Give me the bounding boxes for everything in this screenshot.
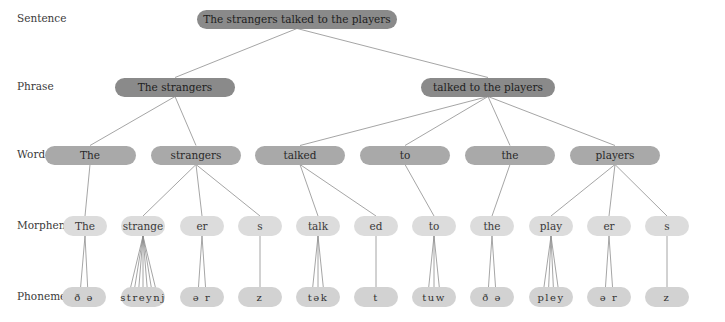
phoneme-node: tək [296, 287, 340, 307]
connector-line [312, 236, 318, 294]
morpheme-node: to [412, 216, 456, 236]
connector-line [318, 236, 324, 294]
linguistic-hierarchy-diagram: Sentence Phrase Word Morpheme Phoneme Th… [0, 0, 725, 322]
morpheme-node: ed [354, 216, 398, 236]
morpheme-node: The [63, 216, 107, 236]
connector-line [90, 97, 175, 146]
connector-line [80, 236, 85, 294]
connector-line [434, 236, 440, 294]
connector-line [300, 165, 376, 217]
phoneme-node: ə r [180, 287, 224, 307]
morpheme-node: talk [296, 216, 340, 236]
morpheme-node: play [529, 216, 573, 236]
morpheme-node: s [645, 216, 689, 236]
phoneme-node: pley [529, 287, 573, 307]
phrase-node: The strangers [115, 78, 235, 97]
phoneme-node: ə r [587, 287, 631, 307]
morpheme-node: the [470, 216, 514, 236]
morpheme-node: s [238, 216, 282, 236]
connector-line [143, 165, 196, 217]
connector-line [175, 29, 297, 78]
phoneme-node: t [354, 287, 398, 307]
connector-line [492, 165, 510, 217]
connector-line [85, 165, 90, 217]
connector-line [85, 236, 88, 294]
phoneme-node: z [645, 287, 689, 307]
word-node: talked [255, 146, 345, 165]
word-node: players [570, 146, 660, 165]
connector-line [202, 236, 206, 294]
connector-line [428, 236, 434, 294]
morpheme-node: er [587, 216, 631, 236]
connector-line [609, 236, 613, 294]
phoneme-node: z [238, 287, 282, 307]
phoneme-node: ð ə [470, 287, 514, 307]
sentence-node: The strangers talked to the players [197, 10, 397, 29]
connector-line [551, 165, 615, 217]
word-node: The [45, 146, 136, 165]
connector-line [405, 97, 488, 146]
phoneme-node: ð ə [62, 287, 106, 307]
connector-line [615, 165, 667, 217]
level-label-sentence: Sentence [17, 12, 66, 24]
connector-line [605, 236, 609, 294]
connector-line [488, 236, 492, 294]
connector-line [198, 236, 202, 294]
phrase-node: talked to the players [421, 78, 555, 97]
connector-line [175, 97, 196, 146]
connector-line [300, 97, 488, 146]
connector-line [196, 165, 202, 217]
phoneme-node: tuw [412, 287, 456, 307]
connector-line [405, 165, 434, 217]
connector-line [196, 165, 260, 217]
word-node: the [465, 146, 555, 165]
connector-line [143, 236, 152, 294]
word-node: to [360, 146, 450, 165]
connector-line [492, 236, 496, 294]
phoneme-node: streynj [121, 287, 165, 307]
level-label-phoneme: Phoneme [17, 290, 66, 302]
level-label-word: Word [17, 148, 45, 160]
connector-line [300, 165, 318, 217]
connector-line [609, 165, 615, 217]
connector-line [297, 29, 488, 78]
level-label-phrase: Phrase [17, 80, 54, 92]
word-node: strangers [151, 146, 241, 165]
morpheme-node: strange [121, 216, 165, 236]
morpheme-node: er [180, 216, 224, 236]
connector-line [134, 236, 143, 294]
